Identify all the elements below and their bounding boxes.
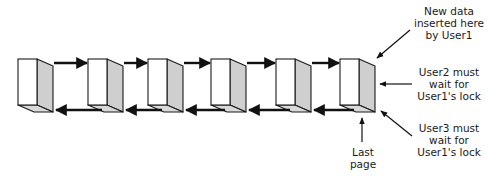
arrow-new-data [377,30,410,58]
label-line: page [350,158,376,170]
label-user3: User3 must wait for User1's lock [417,122,481,158]
label-last-page: Last page [350,146,376,170]
label-line: by User1 [414,29,484,41]
page-block [148,59,183,112]
label-user2: User2 must wait for User1's lock [417,66,481,102]
pages-group [18,59,375,112]
label-line: User3 must [417,122,481,134]
label-line: inserted here [414,17,484,29]
page-block [211,59,246,112]
label-line: wait for [417,78,481,90]
label-line: wait for [417,134,481,146]
label-line: User2 must [417,66,481,78]
page-block [88,59,123,112]
label-line: Last [350,146,376,158]
last-page-block [340,59,375,112]
label-line: User1's lock [417,90,481,102]
page-block [276,59,311,112]
label-line: New data [414,5,484,17]
page-block [18,59,53,112]
arrow-user3 [381,111,412,136]
label-new-data: New data inserted here by User1 [414,5,484,41]
label-line: User1's lock [417,146,481,158]
